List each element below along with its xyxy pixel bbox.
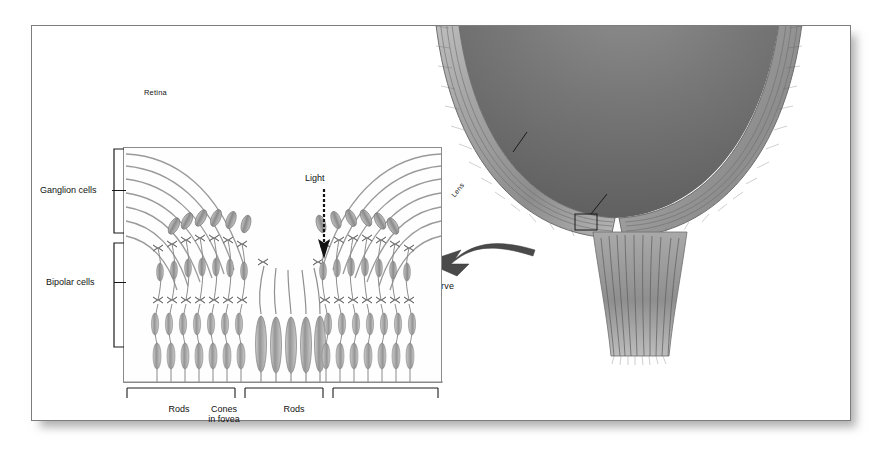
receptor-brackets xyxy=(123,386,442,402)
eye-svg xyxy=(415,26,851,366)
light-arrow-icon xyxy=(314,189,334,261)
retina-inset-svg xyxy=(124,148,443,384)
optic-nerve-feather xyxy=(612,356,666,365)
label-cones-in-fovea: Cones in fovea xyxy=(194,404,254,425)
label-ganglion-cells: Ganglion cells xyxy=(40,186,97,195)
rods-right-bracket xyxy=(333,388,438,398)
label-bipolar-cells: Bipolar cells xyxy=(46,278,95,287)
ganglion-cells-left xyxy=(166,208,253,236)
rods-left xyxy=(151,304,245,382)
ganglion-bracket xyxy=(114,149,124,233)
fovea-cones xyxy=(256,259,326,382)
bipolar-bracket xyxy=(114,243,124,347)
label-light: Light xyxy=(305,173,325,183)
label-cones-line1: Cones xyxy=(211,404,237,414)
label-retina: Retina xyxy=(144,89,167,97)
figure-plate: Retina Fovea Optic disk Lens Optic nerve xyxy=(31,25,851,421)
retina-inset-panel xyxy=(123,147,442,383)
cones-bracket xyxy=(245,388,323,398)
eye-illustration xyxy=(415,26,851,366)
label-cones-line2: in fovea xyxy=(208,414,240,424)
layer-brackets xyxy=(108,147,126,367)
label-rods-right: Rods xyxy=(264,404,324,414)
rods-left-bracket xyxy=(127,388,235,398)
bipolar-leader xyxy=(114,282,126,283)
ganglion-leader xyxy=(112,190,126,191)
figure-canvas: Retina Fovea Optic disk Lens Optic nerve xyxy=(0,0,885,467)
